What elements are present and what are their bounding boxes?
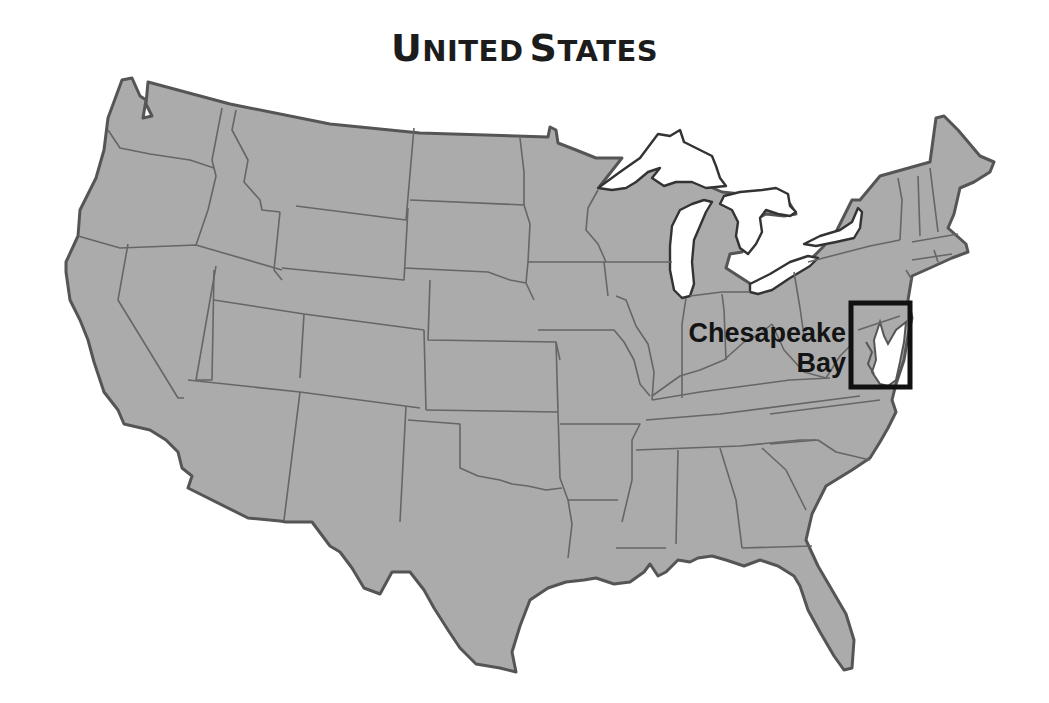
us-map [0,0,1049,703]
chesapeake-bay-label: Chesapeake Bay [640,318,846,378]
label-line-2: Bay [640,348,846,378]
label-line-1: Chesapeake [640,318,846,348]
us-landmass [66,78,994,672]
